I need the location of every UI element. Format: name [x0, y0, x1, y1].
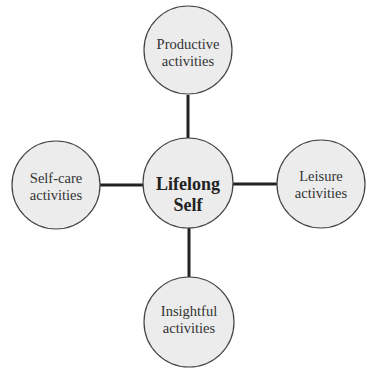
node-label-line-2: activities — [163, 320, 216, 336]
node-self-care-activities: Self-care activities — [12, 141, 100, 229]
node-label-line-2: activities — [30, 187, 83, 203]
node-circle — [277, 140, 365, 228]
node-label-line-2: activities — [295, 185, 348, 201]
center-label-line-1: Lifelong — [156, 174, 220, 194]
node-label-line-1: Productive — [157, 36, 220, 52]
node-insightful-activities: Insightful activities — [144, 277, 234, 367]
node-label-line-1: Insightful — [161, 303, 217, 319]
node-label-line-2: activities — [162, 53, 215, 69]
node-leisure-activities: Leisure activities — [277, 140, 365, 228]
node-label-line-1: Leisure — [299, 168, 342, 184]
center-label-line-2: Self — [174, 195, 204, 215]
node-lifelong-self: Lifelong Self — [143, 138, 233, 228]
node-productive-activities: Productive activities — [144, 6, 232, 94]
hub-diagram: Productive activities Self-care activiti… — [0, 0, 376, 373]
node-label-line-1: Self-care — [30, 170, 82, 186]
